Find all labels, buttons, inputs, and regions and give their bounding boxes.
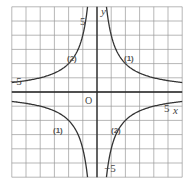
curve-1-branch-2 (106, 7, 182, 83)
hyperbola-graph: y x O −5 5 5 −5 (1) (2) (1) (2) (0, 0, 195, 183)
curve-label-1-q1: (1) (124, 54, 134, 63)
curve-label-2-q2: (2) (67, 54, 77, 63)
y-axis-label: y (100, 5, 106, 17)
curve-label-2-q4: (2) (111, 126, 121, 135)
axes (12, 7, 182, 177)
tick-label-x-neg5: −5 (10, 75, 22, 87)
tick-label-x-pos5: 5 (164, 102, 170, 114)
tick-label-y-neg5: −5 (104, 162, 116, 174)
origin-label: O (85, 95, 92, 106)
curve-2-branch-2 (106, 101, 182, 177)
curve-label-1-q3: (1) (53, 126, 63, 135)
curve-2-branch-1 (12, 7, 88, 83)
curve-1-branch-1 (12, 101, 88, 177)
tick-label-y-pos5: 5 (80, 15, 86, 27)
x-axis-label: x (172, 104, 178, 116)
